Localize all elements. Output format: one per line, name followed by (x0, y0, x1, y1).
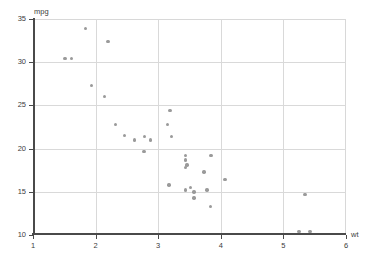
data-point (166, 123, 169, 126)
y-tick-label: 20 (18, 145, 26, 153)
x-axis-line (32, 233, 346, 235)
y-tick-mark (29, 235, 33, 236)
x-tick-mark (33, 235, 34, 239)
data-point (184, 154, 187, 157)
x-tick-label: 3 (156, 242, 160, 250)
data-point (303, 193, 306, 196)
data-point (192, 190, 195, 193)
gridline-vertical (96, 19, 97, 235)
data-point (223, 178, 226, 181)
data-point (70, 57, 73, 60)
gridline-horizontal (33, 62, 346, 63)
gridline-horizontal (33, 105, 346, 106)
x-tick-mark (283, 235, 284, 239)
data-point (209, 205, 212, 208)
data-point (84, 27, 87, 30)
gridline-vertical (221, 19, 222, 235)
data-point (184, 158, 187, 161)
data-point (133, 138, 136, 141)
data-point (167, 183, 170, 186)
x-tick-label: 2 (94, 242, 98, 250)
x-tick-label: 5 (281, 242, 285, 250)
data-point (184, 166, 187, 169)
y-tick-label: 30 (18, 58, 26, 66)
gridline-horizontal (33, 149, 346, 150)
data-point (149, 138, 152, 141)
x-tick-mark (346, 235, 347, 239)
x-tick-mark (96, 235, 97, 239)
x-tick-label: 6 (344, 242, 348, 250)
gridline-horizontal (33, 192, 346, 193)
data-point (205, 188, 208, 191)
x-tick-mark (158, 235, 159, 239)
data-point (168, 109, 171, 112)
gridline-vertical (283, 19, 284, 235)
data-point (63, 57, 66, 60)
data-point (189, 186, 192, 189)
data-point (103, 95, 106, 98)
data-point (202, 170, 205, 173)
x-tick-label: 1 (31, 242, 35, 250)
scatter-plot-chart: mpg wt 123456101520253035 (0, 0, 369, 257)
data-point (192, 196, 195, 199)
y-axis-line (33, 18, 35, 235)
data-point (143, 135, 146, 138)
data-point (170, 135, 173, 138)
plot-frame-top (33, 19, 346, 20)
data-point (114, 123, 117, 126)
data-point (106, 40, 109, 43)
data-point (90, 84, 93, 87)
data-point (142, 150, 145, 153)
y-tick-label: 25 (18, 102, 26, 110)
gridline-vertical (158, 19, 159, 235)
data-point (209, 154, 212, 157)
x-tick-label: 4 (219, 242, 223, 250)
y-axis-title: mpg (34, 8, 49, 16)
plot-area: 123456101520253035 (33, 19, 346, 235)
y-tick-label: 10 (18, 231, 26, 239)
data-point (123, 134, 126, 137)
data-point (184, 188, 187, 191)
x-tick-mark (221, 235, 222, 239)
y-tick-label: 15 (18, 188, 26, 196)
y-tick-label: 35 (18, 15, 26, 23)
plot-frame-right (345, 19, 346, 235)
x-axis-title: wt (351, 231, 359, 239)
